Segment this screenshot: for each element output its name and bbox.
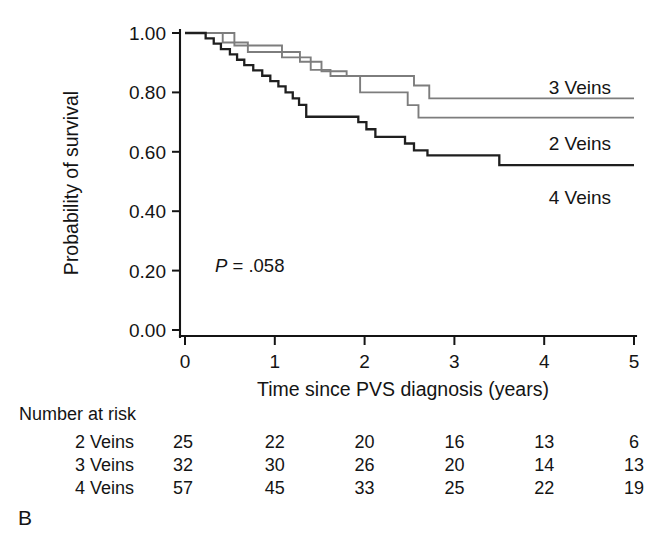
x-tick-label-2: 2	[359, 351, 370, 372]
risk-cell: 26	[345, 455, 385, 476]
x-tick-label-0: 0	[180, 351, 191, 372]
risk-cell: 33	[345, 478, 385, 499]
risk-cell: 45	[255, 478, 295, 499]
risk-cell: 57	[163, 478, 203, 499]
risk-cell: 14	[524, 455, 564, 476]
y-tick-label-1.00: 1.00	[129, 23, 166, 44]
y-tick-label-0.00: 0.00	[129, 320, 166, 341]
y-tick-label-0.80: 0.80	[129, 82, 166, 103]
series-label-4-veins: 4 Veins	[549, 187, 611, 208]
y-axis-title: Probability of survival	[60, 91, 82, 275]
x-axis-ticks	[185, 336, 634, 345]
x-tick-label-4: 4	[539, 351, 550, 372]
risk-cell: 16	[434, 432, 474, 453]
x-axis-tick-labels: 012345	[180, 351, 640, 372]
risk-row-label: 3 Veins	[75, 455, 170, 476]
risk-cell: 13	[524, 432, 564, 453]
risk-cell: 20	[345, 432, 385, 453]
risk-table-row: 2 Veins25222016136	[0, 432, 657, 455]
y-axis-tick-labels: 0.000.200.400.600.801.00	[129, 23, 166, 341]
risk-cell: 19	[614, 478, 654, 499]
p-value-symbol: P	[215, 255, 228, 276]
series-labels: 3 Veins2 Veins4 Veins	[549, 77, 611, 208]
svg-text:P = .058: P = .058	[215, 255, 284, 276]
x-tick-label-5: 5	[629, 351, 640, 372]
x-tick-label-3: 3	[449, 351, 460, 372]
y-tick-label-0.40: 0.40	[129, 201, 166, 222]
x-tick-label-1: 1	[270, 351, 281, 372]
p-value-annotation: P = .058	[215, 255, 284, 276]
panel-letter: B	[18, 506, 32, 530]
risk-cell: 32	[163, 455, 203, 476]
risk-row-label: 2 Veins	[75, 432, 170, 453]
y-axis-ticks	[172, 33, 180, 330]
risk-cell: 6	[614, 432, 654, 453]
risk-cell: 20	[434, 455, 474, 476]
figure-panel-b: 0.000.200.400.600.801.00 012345 Probabil…	[0, 0, 657, 549]
risk-cell: 22	[255, 432, 295, 453]
risk-row-label: 4 Veins	[75, 478, 170, 499]
risk-cell: 25	[434, 478, 474, 499]
y-tick-label-0.20: 0.20	[129, 261, 166, 282]
risk-cell: 22	[524, 478, 564, 499]
risk-table-row: 3 Veins323026201413	[0, 455, 657, 478]
risk-cell: 25	[163, 432, 203, 453]
y-tick-label-0.60: 0.60	[129, 142, 166, 163]
risk-cell: 30	[255, 455, 295, 476]
risk-table-title: Number at risk	[19, 404, 136, 425]
risk-table-row: 4 Veins574533252219	[0, 478, 657, 501]
series-label-3-veins: 3 Veins	[549, 77, 611, 98]
risk-cell: 13	[614, 455, 654, 476]
p-value-number: = .058	[227, 255, 284, 276]
series-label-2-veins: 2 Veins	[549, 133, 611, 154]
x-axis-title: Time since PVS diagnosis (years)	[257, 378, 549, 400]
